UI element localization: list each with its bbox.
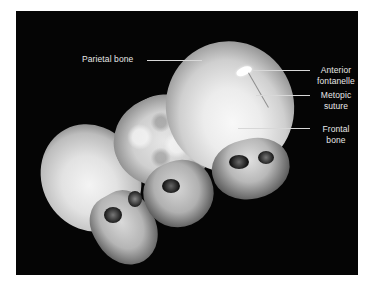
label-anterior-fontanelle: Anterior fontanelle (313, 65, 358, 87)
orbit-right-2 (258, 151, 274, 164)
label-frontal-bone-line2: bone (313, 135, 358, 146)
label-anterior-fontanelle-line1: Anterior (313, 65, 358, 76)
orbit-left-2 (128, 191, 142, 207)
orbit-left (104, 207, 122, 223)
label-metopic-suture: Metopic suture (313, 90, 358, 112)
orbit-right (229, 155, 249, 169)
label-anterior-fontanelle-line2: fontanelle (313, 76, 358, 87)
leader-metopic-suture (256, 95, 310, 96)
label-parietal-bone: Parietal bone (82, 54, 133, 65)
label-frontal-bone: Frontal bone (313, 124, 358, 146)
label-metopic-suture-line2: suture (313, 101, 358, 112)
label-frontal-bone-line1: Frontal (313, 124, 358, 135)
leader-parietal-bone (147, 60, 202, 61)
leader-frontal-bone (238, 128, 310, 129)
skull-figure: Parietal bone Anterior fontanelle Metopi… (16, 11, 358, 275)
label-metopic-suture-line1: Metopic (313, 90, 358, 101)
leader-anterior-fontanelle (252, 70, 310, 71)
orbit-middle (162, 179, 180, 193)
